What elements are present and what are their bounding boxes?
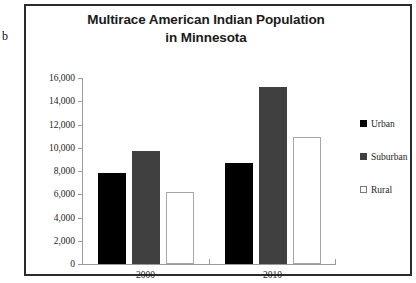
bar-suburban-2010 bbox=[259, 87, 287, 264]
chart-frame: Multirace American Indian Population in … bbox=[24, 4, 412, 276]
legend-swatch-icon bbox=[360, 120, 367, 127]
legend-label: Rural bbox=[371, 185, 392, 195]
y-axis-tick-mark bbox=[78, 125, 83, 126]
legend-swatch-icon bbox=[360, 186, 367, 193]
y-axis-tick-label: 12,000 bbox=[49, 120, 75, 130]
y-axis-tick-mark bbox=[78, 101, 83, 102]
bar-urban-2000 bbox=[98, 173, 126, 264]
chart-legend: UrbanSuburbanRural bbox=[360, 118, 416, 217]
legend-label: Suburban bbox=[371, 152, 407, 162]
legend-swatch-icon bbox=[360, 153, 367, 160]
legend-entry-suburban: Suburban bbox=[360, 151, 416, 162]
x-axis-end-separator bbox=[335, 259, 336, 264]
figure-container: b Multirace American Indian Population i… bbox=[0, 0, 416, 283]
x-axis-tick-label: 2000 bbox=[136, 270, 155, 280]
bar-rural-2000 bbox=[166, 192, 194, 264]
y-axis-tick-label: 6,000 bbox=[54, 189, 75, 199]
y-axis-tick-label: 16,000 bbox=[49, 73, 75, 83]
y-axis-tick-mark bbox=[78, 78, 83, 79]
y-axis-tick-label: 4,000 bbox=[54, 213, 75, 223]
figure-letter-label: b bbox=[2, 30, 8, 42]
y-axis-tick-label: 8,000 bbox=[54, 166, 75, 176]
legend-label: Urban bbox=[371, 119, 395, 129]
y-axis-tick-mark bbox=[78, 241, 83, 242]
y-axis-tick-label: 0 bbox=[70, 259, 75, 269]
bar-rural-2010 bbox=[293, 137, 321, 264]
chart-title-line-2: in Minnesota bbox=[56, 29, 356, 47]
y-axis-tick-mark bbox=[78, 171, 83, 172]
legend-entry-rural: Rural bbox=[360, 184, 416, 195]
chart-title-line-1: Multirace American Indian Population bbox=[56, 11, 356, 29]
y-axis-tick-label: 2,000 bbox=[54, 236, 75, 246]
x-axis-tick-label: 2010 bbox=[263, 270, 282, 280]
x-axis-group-separator bbox=[209, 259, 210, 264]
y-axis-tick-mark bbox=[78, 148, 83, 149]
y-axis-tick-label: 14,000 bbox=[49, 96, 75, 106]
chart-title: Multirace American Indian Population in … bbox=[56, 11, 356, 47]
bar-urban-2010 bbox=[225, 163, 253, 264]
plot-area: 16,00014,00012,00010,0008,0006,0004,0002… bbox=[82, 78, 336, 265]
x-axis-line bbox=[82, 264, 336, 265]
legend-entry-urban: Urban bbox=[360, 118, 416, 129]
y-axis-tick-mark bbox=[78, 194, 83, 195]
y-axis-tick-mark bbox=[78, 218, 83, 219]
y-axis-tick-label: 10,000 bbox=[49, 143, 75, 153]
bar-suburban-2000 bbox=[132, 151, 160, 264]
y-axis-tick-mark bbox=[78, 264, 83, 265]
